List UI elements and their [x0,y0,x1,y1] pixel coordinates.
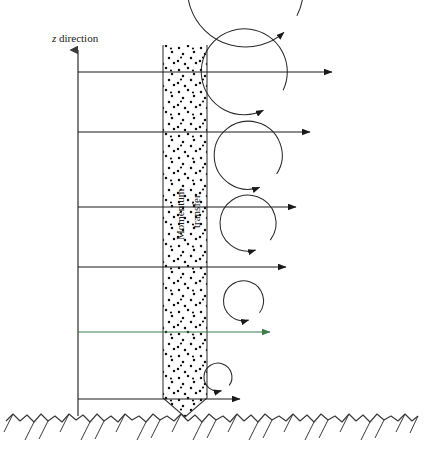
rough-ground [4,414,418,440]
ground-zigzag-line [6,414,418,422]
eddy-5 [224,281,264,321]
momentum-label-line2: transfer [190,194,202,228]
diagram-svg [0,0,424,459]
eddy-4 [220,195,276,251]
z-direction-label: z direction [52,32,98,44]
figure-canvas: z direction Momentum transfer [0,0,424,459]
momentum-label-line1: Momentum [174,189,186,240]
z-direction-text: direction [56,32,98,44]
eddy-6 [204,363,232,391]
eddy-1 [187,0,303,47]
